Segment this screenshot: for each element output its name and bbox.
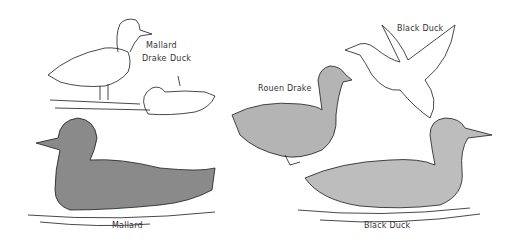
mallard-duck-resting-drawing xyxy=(144,76,215,115)
duck-engravings xyxy=(0,0,508,251)
black-duck-flying-drawing xyxy=(345,25,455,118)
label-mallard-top: Mallard xyxy=(146,41,177,50)
label-black-duck-flying: Black Duck xyxy=(397,24,443,33)
label-drake: Drake xyxy=(142,54,167,63)
label-duck: Duck xyxy=(170,54,191,63)
label-mallard-bottom: Mallard xyxy=(112,221,143,230)
mallard-swimming-drawing xyxy=(28,118,215,226)
duck-species-illustration: Mallard Drake Duck Black Duck Rouen Drak… xyxy=(0,0,508,251)
label-black-duck-swimming: Black Duck xyxy=(364,221,410,230)
label-rouen-drake: Rouen Drake xyxy=(258,84,312,93)
rouen-drake-drawing xyxy=(232,66,352,165)
mallard-drake-standing-drawing xyxy=(48,19,152,110)
